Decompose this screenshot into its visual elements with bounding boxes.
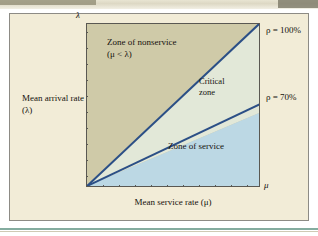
x-axis-tick	[231, 185, 232, 187]
scan-rule-light	[0, 231, 318, 232]
legend-label-rho-70: ρ = 70%	[266, 92, 297, 102]
x-axis-title: Mean service rate (μ)	[86, 197, 260, 207]
y-axis-end-symbol: λ	[76, 10, 80, 20]
label-critical-zone: Critical zone	[199, 76, 225, 97]
scan-blot-left	[0, 0, 96, 5]
x-axis-tick	[215, 185, 216, 187]
y-axis-title: Mean arrival rate (λ)	[22, 92, 84, 116]
label-zone-of-nonservice-sub: (μ < λ)	[107, 49, 176, 61]
scan-blot-right	[278, 0, 318, 8]
scan-artifact-top	[0, 0, 318, 9]
scan-artifact-bottom	[0, 226, 318, 236]
label-zone-of-service: Zone of service	[168, 141, 224, 151]
y-axis-tick	[86, 144, 88, 145]
plot-area: Zone of nonservice (μ < λ) Critical zone…	[86, 23, 260, 187]
x-axis-tick	[199, 185, 200, 187]
figure-root: Mean arrival rate (λ) λ μ	[0, 0, 318, 236]
x-axis-tick	[103, 185, 104, 187]
x-axis-tick	[151, 185, 152, 187]
legend-label-rho-100: ρ = 100%	[266, 25, 301, 35]
label-zone-of-nonservice: Zone of nonservice (μ < λ)	[107, 37, 176, 60]
y-axis-tick	[86, 48, 88, 49]
y-axis-tick	[86, 96, 88, 97]
x-axis-tick	[247, 185, 248, 187]
y-axis-tick	[86, 176, 88, 177]
x-axis-tick	[135, 185, 136, 187]
y-axis-tick	[86, 128, 88, 129]
y-axis-tick	[86, 32, 88, 33]
figure-panel: Mean arrival rate (λ) λ μ	[9, 13, 309, 221]
label-zone-of-nonservice-text: Zone of nonservice	[107, 37, 176, 47]
scan-rule-teal	[0, 228, 318, 230]
y-axis-title-text: Mean arrival rate (λ)	[22, 93, 84, 115]
label-critical-zone-line1: Critical	[199, 76, 225, 87]
y-axis-tick	[86, 112, 88, 113]
label-critical-zone-line2: zone	[199, 87, 225, 98]
y-axis-tick	[86, 64, 88, 65]
y-axis-tick	[86, 160, 88, 161]
x-axis-tick	[119, 185, 120, 187]
x-axis-end-symbol: μ	[264, 180, 269, 190]
x-axis-tick	[183, 185, 184, 187]
y-axis-tick	[86, 80, 88, 81]
x-axis-title-text: Mean service rate (μ)	[134, 197, 211, 207]
x-axis-tick	[167, 185, 168, 187]
